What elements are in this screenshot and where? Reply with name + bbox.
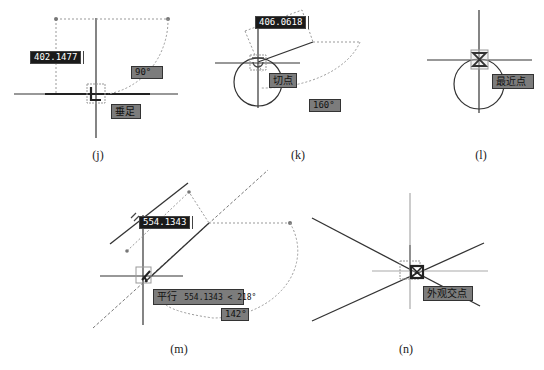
polar-readout: 554.1343 < 218° [184, 293, 256, 302]
caption-k: (k) [291, 148, 305, 163]
snap-tooltip-apparent-intersection: 外观交点 [423, 286, 473, 301]
distance-input-j[interactable]: 402.1477 [30, 51, 81, 64]
distance-input-k[interactable]: 406.0618 [255, 16, 306, 29]
caption-l: (l) [475, 148, 486, 163]
parallel-label: 平行 [157, 291, 177, 302]
angle-tooltip-j: 90° [131, 66, 163, 79]
caption-j: (j) [92, 148, 103, 163]
snap-tooltip-parallel: 平行 554.1343 < 218° [153, 289, 244, 305]
distance-input-m[interactable]: 554.1343 [139, 216, 190, 229]
snap-tooltip-nearest: 最近点 [492, 74, 534, 89]
snap-tooltip-perpendicular: 垂足 [111, 104, 141, 119]
caption-n: (n) [399, 342, 413, 357]
caption-m: (m) [170, 342, 187, 357]
angle-tooltip-m: 142° [221, 308, 249, 321]
snap-tooltip-tangent: 切点 [269, 73, 297, 88]
drawing-canvas [0, 0, 544, 370]
figure-l [427, 10, 532, 113]
angle-tooltip-k: 160° [309, 99, 341, 112]
figure-n [312, 193, 488, 321]
